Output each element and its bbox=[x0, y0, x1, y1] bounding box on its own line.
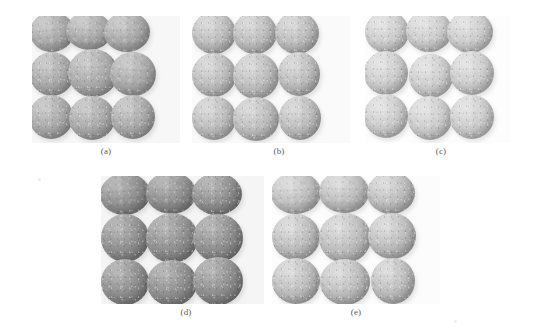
sphere bbox=[233, 16, 277, 54]
panel-caption-a: (a) bbox=[101, 146, 112, 156]
sphere bbox=[233, 53, 279, 99]
panel-b bbox=[192, 16, 350, 143]
sphere bbox=[409, 54, 453, 98]
sphere bbox=[272, 176, 322, 215]
sphere bbox=[406, 16, 452, 52]
sphere bbox=[272, 214, 320, 260]
sphere bbox=[447, 16, 493, 53]
sphere bbox=[109, 50, 158, 97]
sphere bbox=[101, 176, 151, 217]
panel-c bbox=[365, 16, 511, 143]
sphere bbox=[192, 16, 236, 54]
panel-e-photo bbox=[272, 176, 440, 304]
panel-caption-d: (d) bbox=[180, 307, 191, 317]
sphere bbox=[101, 214, 149, 262]
sphere bbox=[408, 96, 452, 140]
sphere-grid-a bbox=[32, 16, 180, 143]
sphere-grid-e bbox=[272, 176, 440, 304]
sphere bbox=[275, 16, 319, 54]
panel-caption-b: (b) bbox=[273, 146, 284, 156]
panel-b-photo bbox=[192, 16, 350, 143]
sphere bbox=[146, 213, 198, 263]
panel-c-photo bbox=[365, 16, 511, 143]
sphere bbox=[193, 257, 243, 304]
scan-artifact bbox=[38, 178, 41, 181]
sphere bbox=[192, 53, 236, 97]
panel-d bbox=[101, 176, 264, 304]
sphere bbox=[365, 94, 408, 138]
sphere bbox=[69, 96, 115, 140]
sphere bbox=[101, 259, 149, 304]
sphere bbox=[103, 16, 150, 53]
sphere bbox=[318, 176, 369, 214]
panel-d-photo bbox=[101, 176, 264, 304]
sphere bbox=[192, 96, 236, 140]
sphere bbox=[365, 51, 408, 95]
sphere bbox=[450, 95, 494, 139]
sphere-grid-b bbox=[192, 16, 350, 143]
sphere-grid-c bbox=[365, 16, 511, 143]
sphere bbox=[371, 258, 415, 304]
sphere bbox=[145, 176, 196, 215]
sphere bbox=[193, 214, 243, 262]
sphere bbox=[272, 258, 320, 304]
panel-e bbox=[272, 176, 440, 304]
sphere bbox=[192, 176, 242, 215]
panel-caption-e: (e) bbox=[351, 307, 362, 317]
sphere bbox=[365, 16, 409, 53]
sphere bbox=[320, 259, 370, 304]
sphere bbox=[111, 95, 155, 139]
sphere-grid-d bbox=[101, 176, 264, 304]
sphere bbox=[450, 51, 494, 95]
scan-artifact bbox=[454, 320, 457, 323]
sphere bbox=[147, 260, 197, 304]
sphere bbox=[319, 213, 371, 263]
sphere bbox=[368, 213, 416, 259]
panel-a bbox=[32, 16, 180, 143]
sphere bbox=[278, 52, 320, 96]
sphere bbox=[279, 96, 321, 140]
figure-canvas: (a)(b)(c)(d)(e) bbox=[0, 0, 541, 336]
panel-caption-c: (c) bbox=[436, 146, 447, 156]
sphere bbox=[32, 95, 73, 139]
panel-a-photo bbox=[32, 16, 180, 143]
sphere bbox=[233, 97, 279, 141]
sphere bbox=[367, 176, 415, 214]
